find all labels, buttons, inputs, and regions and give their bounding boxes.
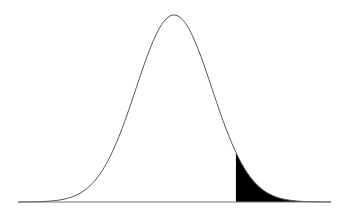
bell-curve (18, 15, 331, 202)
shaded-right-tail (236, 152, 321, 202)
normal-distribution-chart (0, 0, 350, 220)
